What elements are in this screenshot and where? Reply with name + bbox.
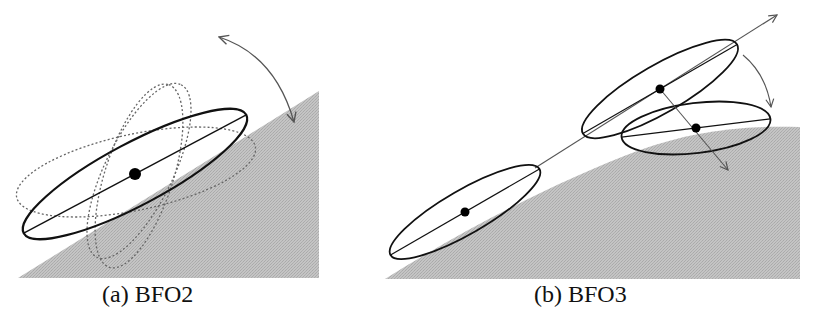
center-point-a: [129, 168, 141, 180]
shaded-region-a: [18, 91, 319, 278]
center-point-start: [461, 208, 470, 217]
panel-a: [9, 37, 319, 278]
shaded-region-b: [385, 127, 800, 279]
caption-panel-b: (b) BFO3: [534, 281, 627, 308]
center-point-rotated: [692, 124, 701, 133]
center-point-translated: [656, 85, 665, 94]
caption-panel-a: (a) BFO2: [102, 281, 193, 308]
figure-canvas: [0, 0, 814, 321]
panel-b: [380, 15, 800, 279]
rotation-arrow-b: [743, 55, 771, 107]
